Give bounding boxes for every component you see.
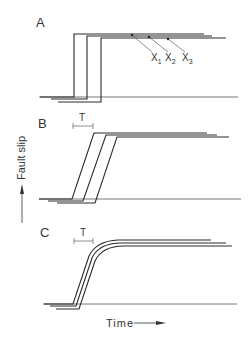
panel-b-trace-x3: [57, 137, 229, 203]
x-axis-label: Time: [106, 317, 134, 329]
y-axis: Fault slip: [15, 136, 27, 223]
panel-b-label: B: [38, 116, 47, 131]
x1-marker: [131, 34, 133, 36]
panel-c-rise-time-label: T: [80, 227, 86, 238]
panel-c: C T: [40, 225, 237, 309]
x-axis-arrow-icon: [156, 321, 166, 325]
x2-pointer: [149, 37, 168, 52]
y-axis-label: Fault slip: [15, 136, 27, 180]
x2-label: X2: [165, 52, 176, 65]
panel-c-trace-x2: [50, 243, 226, 306]
panel-a-trace-x2: [51, 36, 212, 99]
panel-b-trace-x1: [39, 133, 207, 199]
panel-c-label: C: [40, 225, 49, 240]
panel-a-label: A: [36, 15, 45, 30]
panel-a-trace-x1: [40, 34, 204, 97]
x3-label: X3: [182, 52, 193, 65]
x1-label: X1: [151, 52, 162, 65]
x3-pointer: [168, 39, 185, 52]
panel-b-rise-time-label: T: [79, 112, 85, 123]
panel-c-trace-x1: [44, 240, 211, 304]
x2-marker: [148, 36, 150, 38]
x-axis: Time: [106, 317, 166, 329]
panel-b-trace-x2: [48, 135, 217, 201]
x3-marker: [167, 38, 169, 40]
fault-slip-figure: A X1 X2 X3 B T C T: [0, 0, 252, 339]
panel-a: A X1 X2 X3: [36, 15, 238, 102]
panel-a-trace-x3: [58, 38, 226, 102]
y-axis-arrow-icon: [20, 184, 24, 194]
panel-b: B T: [38, 112, 241, 203]
